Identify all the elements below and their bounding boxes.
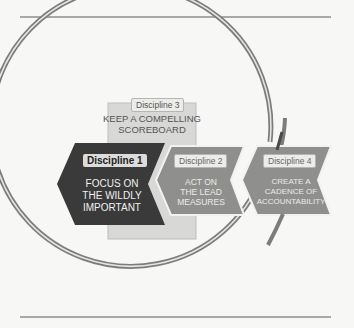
discipline-1-text: FOCUS ON THE WILDLY IMPORTANT xyxy=(72,178,152,214)
discipline-4-line-3: ACCOUNTABILITY xyxy=(252,197,330,207)
discipline-4-line-2: CADENCE OF xyxy=(252,187,330,197)
discipline-2-badge: Discipline 2 xyxy=(174,154,227,168)
discipline-4-badge: Discipline 4 xyxy=(263,154,316,168)
discipline-4-line-1: CREATE A xyxy=(252,177,330,187)
discipline-1-line-1: FOCUS ON xyxy=(72,178,152,190)
discipline-2-line-1: ACT ON xyxy=(168,177,234,187)
discipline-2-line-3: MEASURES xyxy=(168,197,234,207)
discipline-1-badge: Discipline 1 xyxy=(83,154,147,167)
discipline-3-badge: Discipline 3 xyxy=(131,98,184,112)
discipline-3-line-2: SCOREBOARD xyxy=(100,124,204,135)
discipline-2-line-2: THE LEAD xyxy=(168,187,234,197)
discipline-2-text: ACT ON THE LEAD MEASURES xyxy=(168,177,234,207)
discipline-4-text: CREATE A CADENCE OF ACCOUNTABILITY xyxy=(252,177,330,207)
discipline-1-line-3: IMPORTANT xyxy=(72,202,152,214)
discipline-1-line-2: THE WILDLY xyxy=(72,190,152,202)
discipline-3-line-1: KEEP A COMPELLING xyxy=(100,113,204,124)
discipline-3-text: KEEP A COMPELLING SCOREBOARD xyxy=(100,113,204,135)
